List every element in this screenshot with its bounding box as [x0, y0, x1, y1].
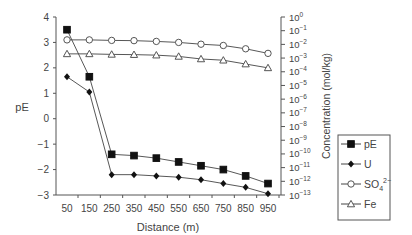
- series-line: [67, 40, 268, 53]
- diamond-marker: [86, 89, 92, 96]
- y2-axis-title: Concentration (mol/kg): [320, 53, 332, 159]
- circle-marker: [64, 37, 70, 43]
- diamond-marker: [131, 171, 137, 178]
- series-line: [67, 54, 268, 68]
- square-marker: [108, 151, 115, 158]
- y2-tick-label: 10−1: [289, 24, 307, 36]
- y2-tick-label: 10−2: [289, 38, 307, 50]
- y2-tick-label: 10−8: [289, 120, 307, 132]
- y-tick-label: 0: [43, 113, 49, 124]
- diamond-marker: [109, 171, 115, 178]
- series-u: [64, 73, 271, 197]
- square-marker: [348, 141, 355, 148]
- square-marker: [86, 73, 93, 80]
- diamond-marker: [153, 172, 159, 179]
- y-tick-label: 1: [43, 88, 49, 99]
- diamond-marker: [265, 190, 271, 197]
- series-line: [67, 77, 268, 194]
- y2-tick-label: 10−6: [289, 93, 307, 105]
- x-tick-label: 550: [170, 203, 187, 214]
- chart: 43210−1−2−3pE501502503504505506507508509…: [0, 0, 412, 235]
- y-tick-label: −3: [38, 190, 50, 201]
- diamond-marker: [176, 174, 182, 181]
- diamond-marker: [64, 73, 70, 80]
- square-marker: [265, 180, 272, 187]
- circle-marker: [175, 39, 181, 45]
- series-fe: [63, 50, 271, 70]
- series-pe: [64, 26, 272, 186]
- x-tick-label: 50: [61, 203, 73, 214]
- y2-tick-label: 10−12: [289, 175, 311, 187]
- y-tick-label: 3: [43, 37, 49, 48]
- y2-tick-label: 10−4: [289, 65, 307, 77]
- circle-marker: [220, 42, 226, 48]
- square-marker: [175, 159, 182, 166]
- square-marker: [220, 166, 227, 173]
- square-marker: [242, 173, 249, 180]
- y2-tick-label: 10−5: [289, 79, 307, 91]
- y-tick-label: −1: [38, 139, 50, 150]
- circle-marker: [348, 181, 354, 187]
- x-tick-label: 450: [148, 203, 165, 214]
- square-marker: [64, 26, 71, 33]
- square-marker: [131, 152, 138, 159]
- legend-label: U: [364, 158, 372, 170]
- y2-tick-label: 10−3: [289, 52, 307, 64]
- y2-tick-label: 10−10: [289, 147, 311, 159]
- y2-tick-label: 10−7: [289, 106, 307, 118]
- x-tick-label: 750: [215, 203, 232, 214]
- legend-label: pE: [364, 138, 377, 150]
- square-marker: [153, 155, 160, 162]
- x-tick-label: 250: [103, 203, 120, 214]
- x-tick-label: 650: [193, 203, 210, 214]
- y-tick-label: 2: [43, 62, 49, 73]
- circle-marker: [131, 37, 137, 43]
- circle-marker: [153, 38, 159, 44]
- x-tick-label: 350: [126, 203, 143, 214]
- x-tick-label: 850: [237, 203, 254, 214]
- axes: 43210−1−2−3pE501502503504505506507508509…: [15, 11, 332, 234]
- y-tick-label: 4: [43, 12, 49, 23]
- y2-tick-label: 10−11: [289, 161, 311, 173]
- x-tick-label: 150: [81, 203, 98, 214]
- y2-tick-label: 10−9: [289, 134, 307, 146]
- y-axis-title: pE: [15, 101, 28, 113]
- y-tick-label: −2: [38, 164, 50, 175]
- series-line: [67, 30, 268, 184]
- data-series: [63, 26, 271, 197]
- x-tick-label: 950: [260, 203, 277, 214]
- square-marker: [198, 162, 205, 169]
- x-axis-title: Distance (m): [137, 221, 199, 233]
- legend: pEUSO42−Fe: [338, 135, 391, 220]
- circle-marker: [242, 46, 248, 52]
- diamond-marker: [243, 184, 249, 191]
- circle-marker: [86, 37, 92, 43]
- circle-marker: [108, 37, 114, 43]
- diamond-marker: [220, 180, 226, 187]
- circle-marker: [265, 50, 271, 56]
- y2-tick-label: 100: [289, 11, 304, 23]
- legend-label: Fe: [364, 198, 376, 210]
- y2-tick-label: 10−13: [289, 189, 311, 201]
- diamond-marker: [198, 176, 204, 183]
- circle-marker: [198, 41, 204, 47]
